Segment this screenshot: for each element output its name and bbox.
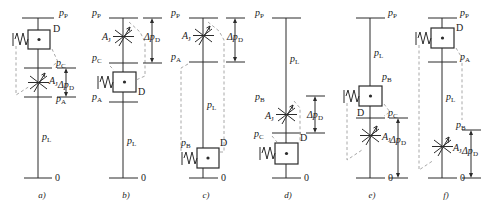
damper-symbol-b	[113, 72, 136, 92]
damper-symbol-f	[431, 28, 454, 48]
label-zero-c: 0	[221, 172, 226, 183]
caption-b: b)	[106, 190, 146, 200]
caption-a: a)	[22, 190, 62, 200]
spring-icon-e	[344, 90, 359, 103]
label-pP-d: pP	[254, 7, 264, 20]
label-delta-b: ΔpD	[143, 31, 160, 44]
damper-symbol-a	[28, 30, 50, 49]
label-pB-c: pB	[180, 137, 191, 150]
spring-icon-d	[260, 147, 275, 160]
label-D-a: D	[53, 23, 60, 34]
panel-c: pP AJ pA pL pB D 0 ΔpD c)	[166, 0, 254, 202]
label-pA-a: pA	[55, 93, 66, 106]
panel-e: pP pL pB D pC AJ 0 ΔpD e)	[332, 0, 416, 202]
label-pP-e: pP	[387, 7, 397, 20]
label-pC-b: pC	[91, 52, 102, 65]
delta-dimension-e	[389, 118, 408, 178]
damper-symbol-e	[359, 86, 382, 106]
spring-icon-a	[13, 33, 28, 46]
label-delta-d: ΔpD	[306, 109, 323, 122]
damper-symbol-c	[197, 148, 219, 168]
label-pP-c: pP	[170, 7, 180, 20]
label-pA-c: pA	[170, 51, 181, 64]
label-pL-a: pL	[41, 131, 51, 144]
panel-b: pP AJ pC D pA pL 0 ΔpD b)	[88, 0, 176, 202]
label-pC-a: pC	[55, 57, 66, 70]
label-D-b: D	[138, 86, 145, 97]
label-zero-b: 0	[141, 172, 146, 183]
label-D-d: D	[300, 132, 307, 143]
label-pA-f: pA	[459, 51, 470, 64]
panel-d: pP pL pB AJ pC D 0 ΔpD d)	[250, 0, 336, 202]
label-delta-e: ΔpD	[389, 134, 406, 147]
spring-icon-c	[182, 152, 197, 165]
caption-f: f)	[426, 190, 466, 200]
label-pB-e: pB	[381, 71, 392, 84]
label-pL-d: pL	[289, 53, 299, 66]
label-delta-c: ΔpD	[226, 31, 243, 44]
label-zero-e: 0	[388, 172, 393, 183]
figure-canvas: pP D pC AJ pA pL 0 ΔpD a)	[0, 0, 489, 202]
label-D-e: D	[357, 107, 364, 118]
label-zero-a: 0	[55, 172, 60, 183]
label-pB-f: pB	[455, 119, 466, 132]
label-delta-a: ΔpD	[57, 79, 74, 92]
panel-a: pP D pC AJ pA pL 0 ΔpD a)	[0, 0, 90, 202]
label-pL-b: pL	[126, 135, 136, 148]
spring-icon-f	[416, 32, 431, 45]
panel-f: pP D pA pL pB AJ 0 ΔpD f)	[410, 0, 489, 202]
label-pL-c: pL	[206, 99, 216, 112]
label-pP-b: pP	[91, 7, 101, 20]
label-AJ-d: AJ	[264, 110, 274, 123]
label-pL-f: pL	[445, 91, 455, 104]
label-pP-f: pP	[459, 7, 469, 20]
label-AJ-c: AJ	[181, 30, 191, 43]
label-pL-e: pL	[373, 47, 383, 60]
label-pA-b: pA	[91, 91, 102, 104]
caption-e: e)	[352, 190, 392, 200]
label-pC-d: pC	[253, 128, 264, 141]
label-D-c: D	[220, 137, 227, 148]
label-zero-f: 0	[460, 172, 465, 183]
spring-icon-b	[98, 76, 113, 89]
label-pC-e: pC	[387, 107, 398, 120]
label-AJ-a: AJ	[48, 75, 58, 88]
damper-symbol-d	[275, 143, 298, 164]
label-pB-d: pB	[254, 91, 265, 104]
caption-d: d)	[268, 190, 308, 200]
label-AJ-b: AJ	[101, 31, 111, 44]
label-delta-f: ΔpD	[461, 145, 478, 158]
label-AJ-f: AJ	[452, 142, 462, 155]
label-zero-d: 0	[304, 172, 309, 183]
caption-c: c)	[186, 190, 226, 200]
label-pP-a: pP	[58, 7, 68, 20]
label-D-f: D	[456, 22, 463, 33]
